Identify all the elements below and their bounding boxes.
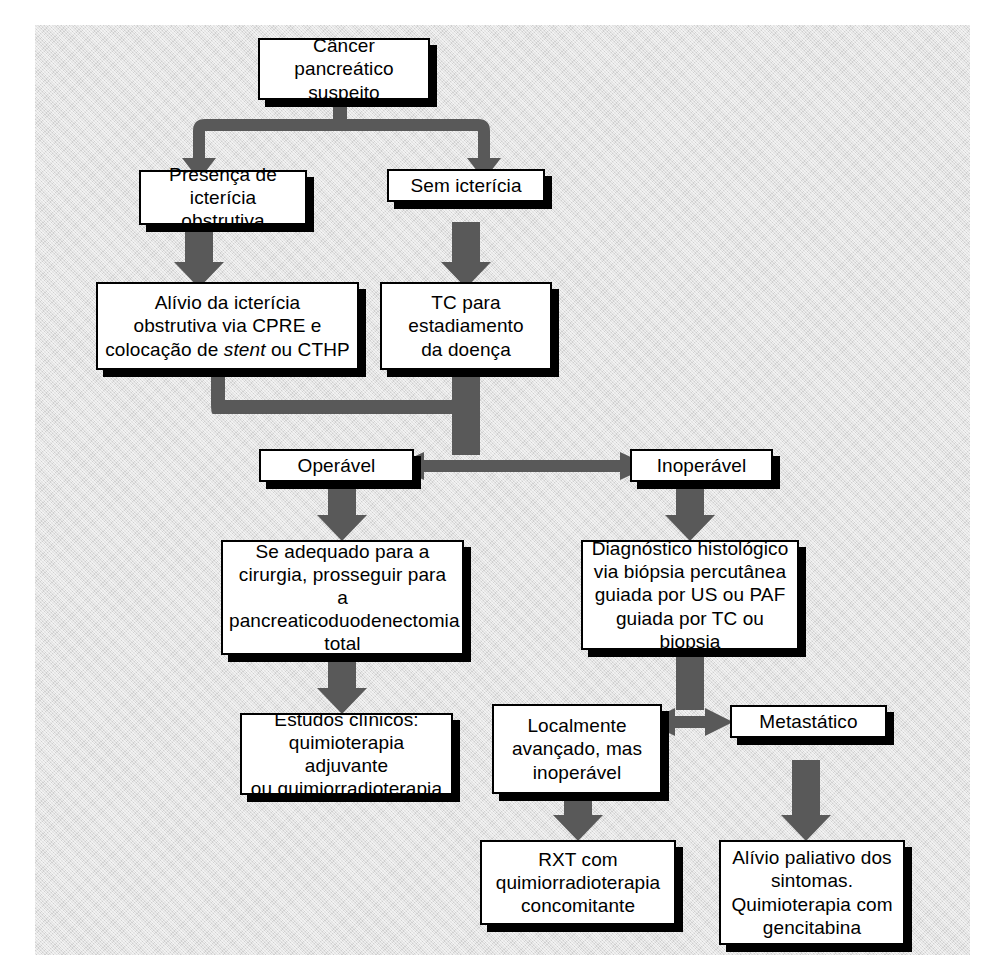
node-inoperable-label: Inoperável [657,455,747,476]
flowchart-canvas: Câncer pancreático suspeito Presença de … [0,0,997,978]
node-rxt-line1: RXT com [538,849,618,870]
edge-operable-inoperable-split [394,452,650,480]
node-trials-line2: quimioterapia adjuvante [289,732,404,776]
node-relief-line3-suffix: ou CTHP [266,339,350,360]
edge-surgery-trials [317,655,367,714]
node-jaundice-relief-cpre-stent[interactable]: Alívio da icterícia obstrutiva via CPRE … [96,282,359,370]
node-surgery-line1: Se adequado para a [255,541,429,562]
edge-operable-surgery [317,482,367,541]
node-surgery-line2: cirurgia, prosseguir para [239,564,446,585]
node-rxt-line2: quimiorradioterapia [496,872,661,893]
node-suspected-pancreatic-cancer[interactable]: Câncer pancreático suspeito [258,38,430,100]
node-histology-line4: guiada por TC ou biopsia [616,608,764,652]
node-jaundice-no-line1: Sem icterícia [410,175,521,196]
node-palliative-line3: Quimioterapia com [731,894,892,915]
node-locally-line1: Localmente [527,715,626,736]
node-relief-line3-prefix: colocação de [105,339,224,360]
node-surgery-line4: total [324,633,360,654]
edge-metastatic-palliative [781,760,831,841]
node-locally-advanced-inoperable[interactable]: Localmente avançado, mas inoperável [492,704,662,794]
node-suspected-line1: Câncer pancreático [294,35,393,79]
node-no-jaundice[interactable]: Sem icterícia [387,169,545,202]
node-obstructive-jaundice-present[interactable]: Presença de icterícia obstrutiva [139,170,307,225]
node-locally-line2: avançado, mas [512,738,642,759]
edge-inoperable-histology [665,482,715,541]
node-rxt-chemoradiation[interactable]: RXT com quimiorradioterapia concomitante [480,840,676,925]
node-clinical-trials[interactable]: Estudos clínicos: quimioterapia adjuvant… [240,713,453,795]
node-surgery-pancreaticoduodenectomy[interactable]: Se adequado para a cirurgia, prosseguir … [221,540,464,655]
node-palliative-gemcitabine[interactable]: Alívio paliativo dos sintomas. Quimioter… [719,840,905,945]
node-operable[interactable]: Operável [259,449,414,482]
edge-locally-rxt [553,795,603,841]
edge-ct-trunk [452,370,480,455]
edge-nojaundice-ct [441,222,491,288]
node-histology-line2: via biópsia percutânea [594,561,786,582]
edge-relief-trunk [211,370,458,414]
node-palliative-line2: sintomas. [771,870,853,891]
node-histology-line3: guiada por US ou PAF [595,584,786,605]
edge-histology-trunk [676,650,704,710]
edge-jaundice-relief [174,225,224,288]
node-trials-line1: Estudos clínicos: [274,709,418,730]
node-relief-line2: obstrutiva via CPRE e [134,315,322,336]
node-metastatic[interactable]: Metastático [730,705,887,738]
connector-layer [0,0,997,978]
node-locally-line3: inoperável [533,762,622,783]
node-ct-line1: TC para [431,292,500,313]
node-jaundice-yes-line2: icterícia obstrutiva [181,187,264,231]
node-ct-line3: da doença [421,339,511,360]
node-histological-diagnosis[interactable]: Diagnóstico histológico via biópsia perc… [581,540,799,650]
node-rxt-line3: concomitante [521,895,635,916]
node-metastatic-label: Metastático [759,711,857,732]
node-suspected-line2: suspeito [308,82,380,103]
node-histology-line1: Diagnóstico histológico [592,538,789,559]
node-trials-line3: ou quimiorradioterapia [251,778,442,799]
node-relief-line3-italic: stent [224,339,266,360]
node-palliative-line4: gencitabina [763,917,861,938]
node-jaundice-yes-line1: Presença de [169,164,277,185]
node-inoperable[interactable]: Inoperável [630,449,773,482]
node-operable-label: Operável [298,455,376,476]
node-relief-line1: Alívio da icterícia [155,292,301,313]
node-surgery-line3: a pancreaticoduodenectomia [229,587,460,631]
node-ct-line2: estadiamento [408,315,523,336]
node-ct-staging[interactable]: TC para estadiamento da doença [380,282,552,370]
node-palliative-line1: Alívio paliativo dos [732,847,891,868]
